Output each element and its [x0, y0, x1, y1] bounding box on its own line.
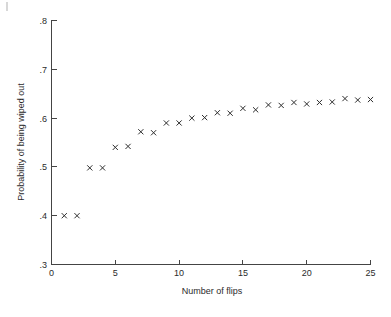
data-point-marker — [189, 116, 194, 121]
y-tick-label: .4 — [39, 211, 47, 221]
x-axis-ticks: 0 5 10 15 20 25 — [49, 260, 376, 279]
data-point-marker — [202, 115, 207, 120]
data-points-group — [62, 96, 373, 218]
data-point-marker — [87, 165, 92, 170]
x-tick-label: 20 — [302, 268, 312, 278]
x-tick-label: 15 — [238, 268, 248, 278]
data-point-marker — [342, 96, 347, 101]
data-point-marker — [368, 97, 373, 102]
data-point-marker — [279, 103, 284, 108]
chart-screenshot: .3 .4 .5 .6 .7 .8 0 5 10 15 20 25 Number… — [0, 0, 391, 317]
y-axis-title: Probability of being wiped out — [16, 83, 26, 201]
data-point-marker — [138, 129, 143, 134]
data-point-marker — [266, 102, 271, 107]
data-point-marker — [330, 99, 335, 104]
data-point-marker — [355, 97, 360, 102]
data-point-marker — [151, 130, 156, 135]
data-point-marker — [100, 165, 105, 170]
y-tick-label: .6 — [39, 114, 47, 124]
data-point-marker — [74, 213, 79, 218]
data-point-marker — [253, 107, 258, 112]
data-point-marker — [317, 100, 322, 105]
data-point-marker — [304, 101, 309, 106]
data-point-marker — [164, 120, 169, 125]
data-point-marker — [125, 144, 130, 149]
y-tick-label: .3 — [39, 260, 47, 270]
y-tick-label: .8 — [39, 16, 47, 26]
data-point-marker — [113, 145, 118, 150]
x-tick-label: 10 — [174, 268, 184, 278]
data-point-marker — [240, 106, 245, 111]
x-tick-label: 0 — [49, 268, 54, 278]
y-tick-label: .5 — [39, 162, 47, 172]
y-tick-label: .7 — [39, 65, 47, 75]
scatter-plot: .3 .4 .5 .6 .7 .8 0 5 10 15 20 25 Number… — [0, 0, 391, 317]
data-point-marker — [177, 120, 182, 125]
axes-group — [52, 20, 371, 265]
data-point-marker — [228, 111, 233, 116]
data-point-marker — [215, 110, 220, 115]
x-tick-label: 5 — [113, 268, 118, 278]
x-tick-label: 25 — [365, 268, 375, 278]
data-point-marker — [62, 213, 67, 218]
x-axis-title: Number of flips — [182, 286, 243, 296]
y-axis-ticks: .3 .4 .5 .6 .7 .8 — [39, 16, 56, 270]
data-point-marker — [291, 100, 296, 105]
